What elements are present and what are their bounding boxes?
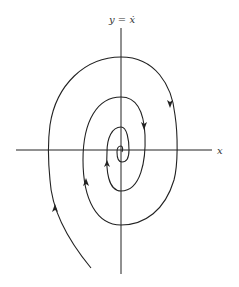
- arrow-icon: [167, 100, 173, 108]
- y-axis-label: y = ẋ: [108, 14, 135, 25]
- x-axis-label: x: [217, 145, 223, 156]
- spiral-trajectory: [49, 57, 178, 268]
- phase-portrait: y = ẋ x: [0, 0, 239, 287]
- arrow-icon: [52, 204, 58, 212]
